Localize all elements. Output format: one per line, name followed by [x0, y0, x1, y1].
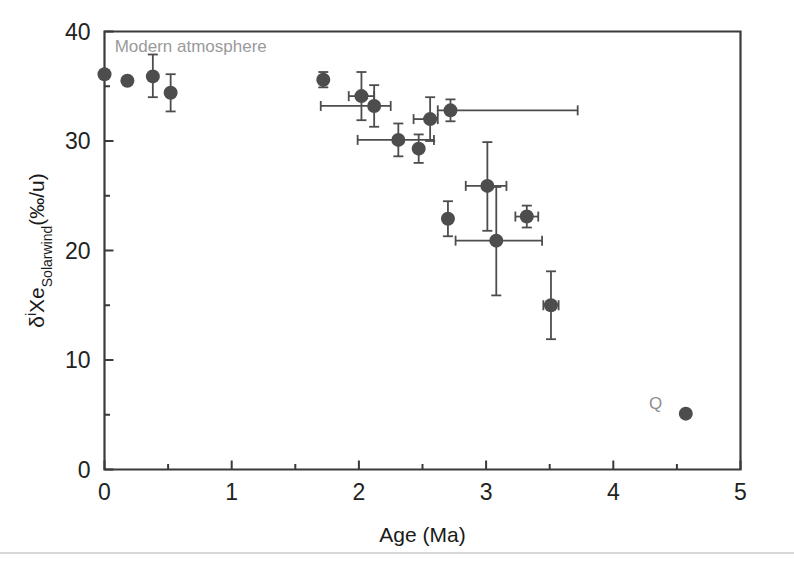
data-point-group[interactable] [321, 85, 391, 127]
x-tick-label: 3 [480, 479, 493, 505]
axis-ticks [105, 32, 741, 470]
x-axis-title: Age (Ma) [379, 523, 465, 546]
x-tick-label: 5 [734, 479, 747, 505]
data-marker[interactable] [544, 298, 558, 312]
data-point-group[interactable] [316, 72, 330, 87]
y-tick-label: 10 [65, 347, 91, 373]
data-series [98, 54, 693, 420]
bottom-divider [0, 552, 794, 554]
data-marker[interactable] [441, 212, 455, 226]
data-point-group[interactable] [679, 407, 693, 421]
data-marker[interactable] [679, 407, 693, 421]
data-marker[interactable] [391, 133, 405, 147]
data-point-group[interactable] [412, 134, 426, 162]
data-point-group[interactable] [146, 54, 160, 97]
data-marker[interactable] [412, 142, 426, 156]
y-tick-label: 40 [65, 19, 91, 45]
annotations: Modern atmosphereQ [115, 37, 662, 413]
data-marker[interactable] [520, 210, 534, 224]
data-point-group[interactable] [515, 206, 538, 228]
axis-frame [105, 32, 741, 470]
x-tick-label: 0 [98, 479, 111, 505]
y-tick-label: 20 [65, 238, 91, 264]
data-point-group[interactable] [543, 271, 558, 339]
data-marker[interactable] [423, 112, 437, 126]
data-marker[interactable] [367, 99, 381, 113]
data-marker[interactable] [480, 179, 494, 193]
data-marker[interactable] [164, 86, 178, 100]
data-point-group[interactable] [441, 201, 455, 236]
data-point-group[interactable] [120, 74, 134, 88]
data-point-group[interactable] [164, 74, 178, 111]
data-point-group[interactable] [456, 187, 542, 295]
data-marker[interactable] [120, 74, 134, 88]
figure-container: 010203040012345Age (Ma)δiXeSolarwind(‰/u… [0, 0, 794, 562]
scatter-plot: 010203040012345Age (Ma)δiXeSolarwind(‰/u… [0, 0, 794, 562]
y-tick-label: 0 [78, 457, 91, 483]
data-point-group[interactable] [98, 67, 112, 81]
y-axis-title: δiXeSolarwind(‰/u) [23, 173, 55, 328]
y-tick-label: 30 [65, 128, 91, 154]
data-point-group[interactable] [438, 99, 578, 121]
plot-frame [105, 32, 741, 470]
data-point-group[interactable] [349, 72, 374, 120]
x-tick-label: 2 [353, 479, 366, 505]
modern-atmosphere-label: Modern atmosphere [115, 37, 267, 56]
data-marker[interactable] [146, 69, 160, 83]
x-tick-label: 4 [607, 479, 620, 505]
data-marker[interactable] [354, 89, 368, 103]
data-marker[interactable] [98, 67, 112, 81]
y-axis-title-text: δiXeSolarwind(‰/u) [23, 173, 55, 328]
q-label: Q [649, 394, 662, 413]
data-marker[interactable] [443, 103, 457, 117]
x-tick-label: 1 [225, 479, 238, 505]
data-marker[interactable] [316, 73, 330, 87]
data-marker[interactable] [489, 234, 503, 248]
